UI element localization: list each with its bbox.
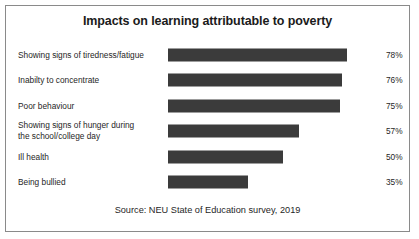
bar-row: Poor behaviour 75% [6, 93, 409, 119]
bar-track [168, 144, 397, 170]
bar-row: Ill health 50% [6, 144, 409, 170]
value-label: 50% [386, 152, 403, 162]
bar-track [168, 119, 397, 145]
value-label: 76% [386, 75, 403, 85]
bar-track [168, 93, 397, 119]
category-label: Showing signs of hunger during the schoo… [18, 121, 163, 142]
bar [168, 125, 299, 138]
bar-row: Showing signs of tiredness/fatigue 78% [6, 42, 409, 68]
bar [168, 74, 342, 87]
bar [168, 150, 283, 163]
bar-row: Showing signs of hunger during the schoo… [6, 119, 409, 145]
bar-row: Being bullied 35% [6, 170, 409, 196]
category-label: Ill health [18, 151, 163, 162]
bar-track [168, 42, 397, 68]
bar-track [168, 170, 397, 196]
value-label: 57% [386, 126, 403, 136]
category-label: Showing signs of tiredness/fatigue [18, 49, 163, 60]
value-label: 35% [386, 177, 403, 187]
value-label: 75% [386, 101, 403, 111]
bar-chart-plot-area: Showing signs of tiredness/fatigue 78% I… [6, 42, 409, 197]
category-label: Inabilty to concentrate [18, 75, 163, 86]
chart-title: Impacts on learning attributable to pove… [6, 14, 409, 28]
chart-figure: Impacts on learning attributable to pove… [5, 5, 410, 232]
bar [168, 48, 347, 61]
source-note: Source: NEU State of Education survey, 2… [6, 205, 409, 215]
bar [168, 99, 340, 112]
category-label: Poor behaviour [18, 100, 163, 111]
category-label: Being bullied [18, 177, 163, 188]
bar [168, 176, 248, 189]
value-label: 78% [386, 50, 403, 60]
bar-track [168, 68, 397, 94]
bar-row: Inabilty to concentrate 76% [6, 68, 409, 94]
